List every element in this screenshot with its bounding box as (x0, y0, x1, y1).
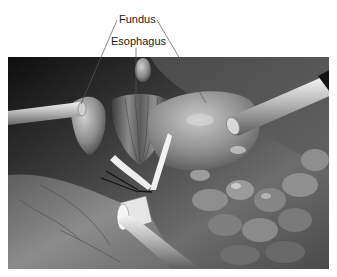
scene (0, 57, 337, 269)
label-fundus: Fundus (119, 13, 156, 25)
label-esophagus: Esophagus (111, 35, 167, 47)
surgical-illustration: Fundus Esophagus (0, 0, 337, 277)
upper-lump (135, 58, 151, 82)
